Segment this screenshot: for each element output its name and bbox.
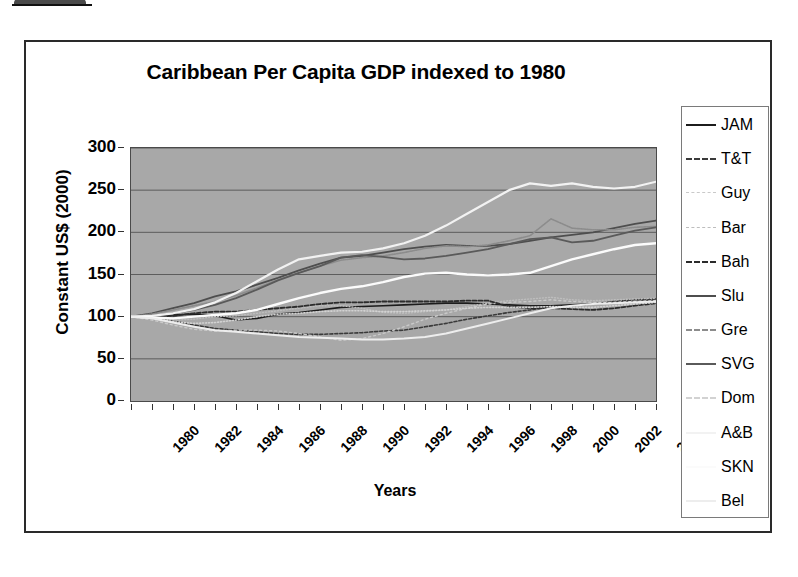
legend-line-swatch [686,256,716,268]
legend-label: SVG [721,355,755,373]
page-title: Caribbean Per Capita GDP indexed to 1980 [26,60,686,84]
legend-item-jam[interactable]: JAM [682,108,770,142]
x-tick-mark [152,404,153,410]
x-tick-mark [551,404,552,410]
legend-line-swatch [686,153,716,165]
legend-line-swatch [686,222,716,234]
x-tick-mark [215,404,216,410]
x-tick-mark [173,404,174,410]
x-tick-mark [467,404,468,410]
x-tick-label: 2002 [631,422,664,455]
x-tick-mark [656,404,657,410]
y-tick-mark [118,189,124,190]
y-tick-label: 250 [88,179,116,199]
x-tick-mark [614,404,615,410]
y-tick-label: 200 [88,221,116,241]
legend-label: Bel [721,492,744,510]
legend-label: Gre [721,321,748,339]
legend-line-swatch [686,461,716,473]
x-tick-label: 1982 [211,422,244,455]
legend-item-svg[interactable]: SVG [682,347,770,381]
x-tick-label: 1980 [169,422,202,455]
x-tick-mark [194,404,195,410]
legend-line-swatch [686,427,716,439]
legend-item-slu[interactable]: Slu [682,279,770,313]
x-tick-mark [278,404,279,410]
x-tick-label: 1988 [337,422,370,455]
y-tick-label: 150 [88,264,116,284]
x-tick-label: 1984 [253,422,286,455]
y-tick-label: 300 [88,137,116,157]
legend: JAMT&TGuyBarBahSluGreSVGDomA&BSKNBel [681,106,769,518]
y-tick-label: 50 [97,348,116,368]
legend-line-swatch [686,358,716,370]
x-tick-label: 1992 [421,422,454,455]
legend-item-bah[interactable]: Bah [682,245,770,279]
y-tick-label: 100 [88,306,116,326]
legend-label: Guy [721,184,750,202]
legend-label: T&T [721,150,751,168]
x-tick-mark [404,404,405,410]
x-tick-mark [509,404,510,410]
legend-line-swatch [686,187,716,199]
line-chart-svg [131,148,656,401]
x-tick-mark [236,404,237,410]
x-tick-mark [572,404,573,410]
legend-label: JAM [721,116,753,134]
legend-label: SKN [721,458,754,476]
legend-line-swatch [686,324,716,336]
x-tick-mark [425,404,426,410]
y-tick-mark [118,316,124,317]
x-tick-mark [131,404,132,410]
legend-line-swatch [686,392,716,404]
legend-line-swatch [686,290,716,302]
legend-item-skn[interactable]: SKN [682,450,770,484]
y-tick-mark [118,147,124,148]
x-tick-mark [593,404,594,410]
x-tick-mark [257,404,258,410]
y-axis-tick-labels: 050100150200250300 [56,137,124,412]
legend-label: Bar [721,219,746,237]
legend-label: A&B [721,424,753,442]
figure-frame: Caribbean Per Capita GDP indexed to 1980… [24,40,772,533]
legend-line-swatch [686,495,716,507]
legend-label: Dom [721,389,755,407]
series-line-ab [131,182,656,317]
x-tick-mark [341,404,342,410]
legend-item-guy[interactable]: Guy [682,176,770,210]
legend-item-bel[interactable]: Bel [682,484,770,518]
x-tick-mark [383,404,384,410]
x-tick-label: 1996 [505,422,538,455]
legend-item-bar[interactable]: Bar [682,211,770,245]
x-axis-tick-labels: 1980198219841986198819901992199419961998… [130,404,690,484]
legend-item-tt[interactable]: T&T [682,142,770,176]
legend-item-ab[interactable]: A&B [682,416,770,450]
x-axis-title: Years [130,482,660,500]
x-tick-mark [320,404,321,410]
legend-item-dom[interactable]: Dom [682,381,770,415]
x-tick-mark [299,404,300,410]
scan-artifact-line [12,4,92,6]
y-tick-mark [118,400,124,401]
legend-label: Slu [721,287,744,305]
x-tick-label: 1990 [379,422,412,455]
plot-area [130,147,657,402]
legend-line-swatch [686,119,716,131]
x-tick-mark [530,404,531,410]
y-tick-mark [118,358,124,359]
x-tick-mark [488,404,489,410]
y-tick-mark [118,274,124,275]
x-tick-mark [635,404,636,410]
legend-label: Bah [721,253,749,271]
x-tick-label: 1994 [463,422,496,455]
x-tick-label: 1998 [547,422,580,455]
x-tick-mark [446,404,447,410]
legend-item-gre[interactable]: Gre [682,313,770,347]
y-tick-mark [118,231,124,232]
x-tick-label: 1986 [295,422,328,455]
x-tick-mark [362,404,363,410]
x-tick-label: 2000 [589,422,622,455]
y-tick-label: 0 [107,390,116,410]
